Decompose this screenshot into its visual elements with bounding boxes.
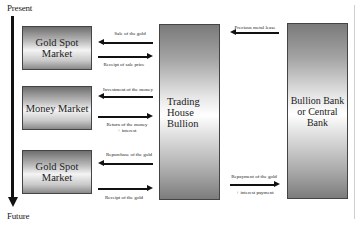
arrow-right-icon (98, 56, 148, 58)
box-label: Gold Spot Market (36, 161, 79, 183)
arrow-left-icon (103, 42, 153, 44)
arrow-left-icon (103, 163, 153, 165)
box-label: Gold Spot Market (36, 37, 79, 59)
flow-label-repayment-of-gold: Repayment of the gold (224, 174, 284, 180)
timeline-end-label: Future (7, 211, 29, 221)
flow-label-precious-metal-lease: Precious metal lease (229, 25, 281, 31)
flow-label-investment-of-money: Investment of the money (96, 87, 160, 93)
arrow-left-icon (235, 32, 279, 34)
timeline-start-label: Present (7, 3, 32, 13)
flow-label-repurchase-of-gold: Repurchase of the gold (97, 152, 161, 158)
flow-label-receipt-of-gold: Receipt of the gold (94, 195, 154, 201)
gold-spot-market-box-2: Gold Spot Market (22, 150, 92, 194)
arrow-right-icon (230, 184, 275, 186)
page-edge-divider (354, 5, 355, 219)
bullion-bank-box: Bullion Bank or Central Bank (287, 23, 348, 199)
trading-house-bullion-box: Trading House Bullion (159, 24, 220, 200)
flow-label-sale-of-gold: Sale of the gold (100, 31, 160, 37)
arrow-right-icon (98, 116, 148, 118)
flow-label-receipt-of-sale-price: Receipt of sale price (94, 62, 154, 68)
box-label: Trading House Bullion (167, 96, 200, 129)
timeline-axis (11, 16, 14, 199)
gold-spot-market-box-1: Gold Spot Market (22, 26, 92, 70)
arrow-right-icon (98, 188, 148, 190)
box-label: Money Market (26, 103, 89, 114)
box-label: Bullion Bank or Central Bank (291, 95, 345, 128)
timeline-arrowhead-icon (8, 197, 18, 207)
flow-sublabel-interest-payment: + interest payment (225, 190, 285, 196)
arrow-left-icon (103, 96, 153, 98)
flow-label-return-of-money: Return of the money + interest (95, 122, 159, 134)
money-market-box: Money Market (22, 86, 92, 130)
